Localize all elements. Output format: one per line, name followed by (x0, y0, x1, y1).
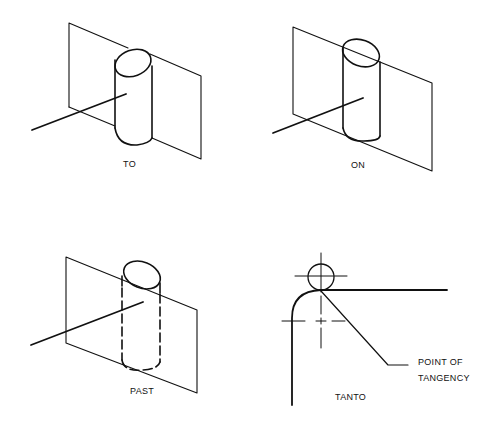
panel-to (32, 23, 201, 159)
label-tanto: TANTO (335, 392, 366, 402)
fillet-arc (292, 290, 321, 405)
label-to: TO (123, 159, 136, 169)
callout-point-of: POINT OF (418, 357, 463, 367)
plane-to-bottom-left (69, 107, 115, 126)
line-on (273, 98, 363, 133)
line-past (31, 302, 143, 345)
plane-to-right (150, 54, 201, 159)
panel-past (31, 256, 197, 393)
label-past: PAST (130, 386, 154, 396)
leader-line (321, 291, 408, 365)
cylinder-on (339, 34, 384, 141)
diagram-canvas (0, 0, 485, 424)
callout-tangency: TANGENCY (418, 373, 470, 383)
cylinder-to (111, 44, 155, 145)
plane-past (66, 257, 197, 393)
panel-on (273, 27, 432, 171)
cylinder-past (120, 256, 165, 370)
label-on: ON (351, 160, 365, 170)
